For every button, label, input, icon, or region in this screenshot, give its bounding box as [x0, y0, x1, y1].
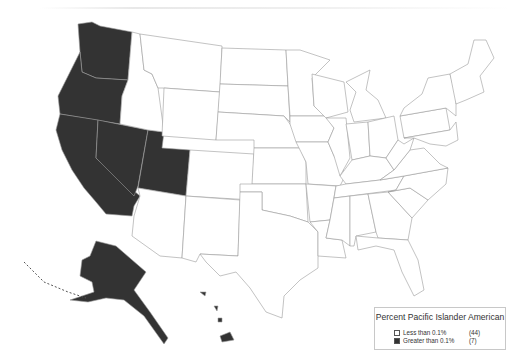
legend-swatch-dark	[394, 338, 400, 344]
state-north-dakota[interactable]	[220, 48, 288, 86]
state-new-mexico[interactable]	[182, 196, 240, 262]
legend-item-high: Greater than 0.1% (7)	[394, 337, 454, 344]
map-legend: Percent Pacific Islander American Less t…	[374, 307, 506, 350]
legend-label: Less than 0.1%	[403, 329, 446, 336]
state-alaska[interactable]	[70, 241, 168, 344]
state-michigan[interactable]	[346, 70, 386, 122]
state-alaska-aleutians	[24, 262, 86, 298]
legend-label: Greater than 0.1%	[403, 337, 454, 344]
state-new-york[interactable]	[400, 74, 456, 116]
state-hawaii[interactable]	[200, 292, 234, 342]
legend-title: Percent Pacific Islander American	[375, 312, 505, 322]
legend-count: (7)	[469, 337, 477, 344]
state-kansas[interactable]	[252, 148, 306, 184]
state-arizona[interactable]	[132, 188, 186, 258]
states	[24, 22, 494, 344]
state-florida[interactable]	[356, 236, 424, 296]
legend-swatch-white	[394, 330, 400, 336]
legend-item-low: Less than 0.1% (44)	[394, 329, 446, 336]
state-new-england[interactable]	[450, 40, 494, 104]
legend-count: (44)	[469, 329, 480, 336]
state-washington[interactable]	[78, 22, 132, 80]
state-wyoming[interactable]	[162, 88, 220, 140]
